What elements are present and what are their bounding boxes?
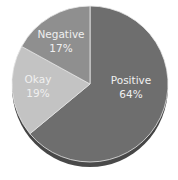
pie-chart: Positive64%Okay19%Negative17% — [0, 0, 178, 180]
slice-percent-negative: 17% — [49, 42, 72, 54]
slice-percent-okay: 19% — [26, 87, 49, 99]
slice-percent-positive: 64% — [119, 88, 142, 100]
slice-label-okay: Okay — [25, 73, 52, 85]
slice-label-negative: Negative — [37, 28, 84, 40]
slice-label-positive: Positive — [111, 74, 151, 86]
